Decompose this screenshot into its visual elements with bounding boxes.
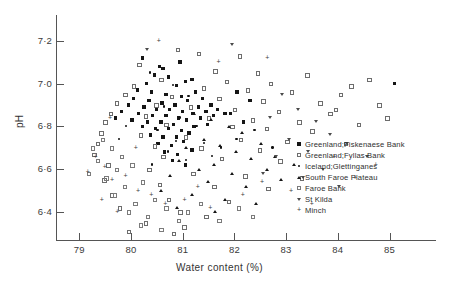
data-point-dot <box>203 142 205 144</box>
data-point-open-square <box>202 86 207 91</box>
data-point-inverted-triangle <box>261 172 265 175</box>
data-point-open-square-2 <box>87 172 91 176</box>
data-point-open-square <box>153 144 158 149</box>
data-point-plus: + <box>156 39 161 44</box>
data-point-open-square <box>217 97 222 102</box>
data-point-open-square <box>102 178 107 183</box>
data-point-open-square <box>277 110 282 115</box>
data-point-filled-square <box>201 97 204 100</box>
data-point-triangle <box>279 178 283 181</box>
data-point-filled-square <box>180 95 183 98</box>
data-point-open-square <box>118 206 123 211</box>
data-point-triangle <box>249 157 253 160</box>
data-point-plus: + <box>297 208 302 213</box>
data-point-open-square-2 <box>186 210 190 214</box>
data-point-filled-square <box>168 108 171 111</box>
data-point-open-square-2 <box>115 168 119 172</box>
data-point-open-square <box>164 123 169 128</box>
data-point-inverted-triangle <box>274 155 278 158</box>
data-point-inverted-triangle <box>280 93 284 96</box>
data-point-open-square <box>204 215 209 220</box>
data-point-open-square <box>328 112 333 117</box>
legend: Greenland;Fiskenaese BankGreenland;Fylla… <box>293 139 445 216</box>
data-point-open-square <box>189 105 194 110</box>
y-tick-label: 6·6 <box>26 163 52 174</box>
data-point-open-square <box>176 48 181 53</box>
legend-marker-icon <box>293 140 305 148</box>
legend-item-open-square-2: Faroe Bank <box>293 183 445 193</box>
data-point-open-square-2 <box>153 198 157 202</box>
data-point-filled-square <box>137 112 140 115</box>
legend-item-label: Greenland;Fyllas Bank <box>305 151 385 160</box>
data-point-open-square-2 <box>217 219 221 223</box>
data-point-open-square-2 <box>130 163 134 167</box>
data-point-open-square <box>310 129 315 134</box>
data-point-filled-square <box>163 150 166 153</box>
data-point-open-square <box>318 101 323 106</box>
data-point-filled-square <box>297 142 300 145</box>
data-point-open-square <box>212 185 217 190</box>
data-point-dot <box>271 146 273 148</box>
data-point-filled-square <box>176 153 179 156</box>
x-tick <box>390 233 391 240</box>
data-point-filled-square <box>235 90 238 93</box>
data-point-inverted-triangle <box>287 138 291 141</box>
data-point-open-square <box>227 200 232 205</box>
data-point-dot <box>178 116 180 118</box>
data-point-open-square <box>170 95 175 100</box>
data-point-filled-square <box>177 116 180 119</box>
data-point-triangle <box>259 142 263 145</box>
data-point-dot <box>118 138 120 140</box>
data-point-filled-square <box>216 108 219 111</box>
legend-item-open-square: Greenland;Fyllas Bank <box>293 150 445 160</box>
data-point-filled-square <box>184 80 187 83</box>
data-point-dot <box>156 129 158 131</box>
data-point-plus: + <box>216 60 221 65</box>
data-point-dot <box>151 163 153 165</box>
data-point-triangle <box>177 159 181 162</box>
data-point-plus: + <box>123 174 128 179</box>
data-point-open-square <box>265 127 270 132</box>
data-point-filled-square <box>191 112 194 115</box>
data-point-triangle <box>230 172 234 175</box>
data-point-dot <box>220 146 222 148</box>
y-tick <box>57 126 64 127</box>
data-point-filled-square <box>242 120 245 123</box>
data-point-open-square-2 <box>123 185 127 189</box>
data-point-open-square <box>305 73 310 78</box>
data-point-open-square <box>197 52 202 57</box>
data-point-filled-square <box>151 114 154 117</box>
data-point-filled-square <box>156 142 159 145</box>
data-point-filled-square <box>155 108 158 111</box>
data-point-triangle <box>234 150 238 153</box>
data-point-filled-square <box>187 131 190 134</box>
data-point-open-square <box>220 157 225 162</box>
data-point-filled-square <box>212 114 215 117</box>
data-point-filled-square <box>145 82 148 85</box>
data-point-inverted-triangle <box>297 198 301 201</box>
data-point-dot <box>298 165 300 167</box>
data-point-open-square <box>139 133 144 138</box>
legend-item-label: Greenland;Fiskenaese Bank <box>305 140 405 149</box>
legend-item-label: Faroe Bank <box>305 184 346 193</box>
data-point-triangle <box>184 146 188 149</box>
data-point-open-square <box>147 168 152 173</box>
data-point-open-square-2 <box>104 176 108 180</box>
data-point-open-square <box>261 99 266 104</box>
data-point-filled-square <box>146 120 149 123</box>
data-point-filled-square <box>186 99 189 102</box>
x-tick <box>183 233 184 240</box>
data-point-open-square-2 <box>237 206 241 210</box>
data-point-filled-square <box>204 110 207 113</box>
y-tick <box>57 84 64 85</box>
data-point-triangle <box>202 138 206 141</box>
data-point-plus: + <box>240 193 245 198</box>
data-point-filled-square <box>206 123 209 126</box>
data-point-open-square <box>199 146 204 151</box>
data-point-open-square <box>297 120 302 125</box>
data-point-plus: + <box>265 56 270 61</box>
data-point-filled-square <box>171 159 174 162</box>
data-point-plus: + <box>163 202 168 207</box>
data-point-open-square <box>182 225 187 230</box>
x-tick <box>286 233 287 240</box>
